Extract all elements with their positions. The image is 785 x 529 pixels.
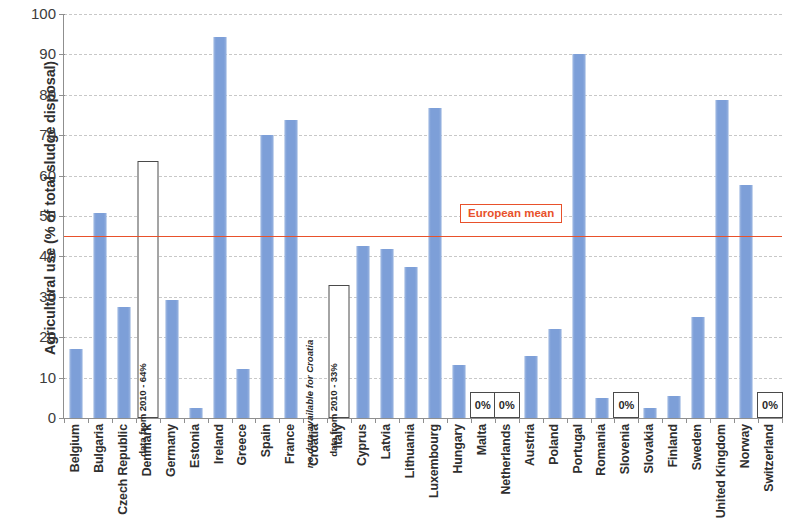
- bar-estonia[interactable]: [189, 408, 202, 418]
- bar-united-kingdom[interactable]: [716, 100, 729, 418]
- bar-slot[interactable]: [64, 14, 88, 418]
- bar-sweden[interactable]: [692, 317, 705, 418]
- bar-slot[interactable]: [591, 14, 615, 418]
- bar-slot[interactable]: [279, 14, 303, 418]
- bar-slot[interactable]: [208, 14, 232, 418]
- bar-slot[interactable]: [375, 14, 399, 418]
- x-label-slot: Romania: [590, 424, 614, 529]
- x-axis-label-poland: Poland: [547, 424, 561, 465]
- y-tick-label: 20: [16, 328, 56, 345]
- bar-austria[interactable]: [524, 356, 537, 418]
- bar-czech-republic[interactable]: [117, 307, 130, 418]
- zero-value-box-netherlands[interactable]: 0%: [494, 392, 520, 418]
- x-axis-label-united-kingdom: United Kingdom: [714, 424, 728, 518]
- bar-slot[interactable]: [399, 14, 423, 418]
- x-tick-mark: [471, 418, 472, 423]
- x-axis-label-denmark: Denmark: [140, 424, 154, 476]
- x-label-slot: Portugal: [566, 424, 590, 529]
- x-axis-label-luxembourg: Luxembourg: [427, 424, 441, 498]
- bar-hungary[interactable]: [452, 365, 465, 418]
- bar-slot[interactable]: [232, 14, 256, 418]
- x-tick-mark: [112, 418, 113, 423]
- european-mean-label: European mean: [460, 204, 562, 223]
- x-tick-mark: [327, 418, 328, 423]
- bar-finland[interactable]: [668, 396, 681, 418]
- x-tick-mark: [591, 418, 592, 423]
- x-axis-label-czech-republic: Czech Republic: [116, 424, 130, 515]
- bar-poland[interactable]: [548, 329, 561, 418]
- bar-germany[interactable]: [165, 300, 178, 418]
- x-label-slot: Norway: [733, 424, 757, 529]
- bar-slot[interactable]: [255, 14, 279, 418]
- bar-slot[interactable]: no data available for Croatia: [303, 14, 327, 418]
- bar-slot[interactable]: [351, 14, 375, 418]
- x-axis-label-italy: Italy: [331, 424, 345, 448]
- y-tick-label: 80: [16, 86, 56, 103]
- x-axis-label-belgium: Belgium: [68, 424, 82, 472]
- x-label-slot: Austria: [518, 424, 542, 529]
- bar-slot[interactable]: [184, 14, 208, 418]
- x-axis-label-netherlands: Netherlands: [499, 424, 513, 495]
- y-tick-label: 100: [16, 5, 56, 22]
- y-tick-label: 70: [16, 126, 56, 143]
- bar-slot[interactable]: [734, 14, 758, 418]
- x-label-slot: Sweden: [685, 424, 709, 529]
- bar-slot[interactable]: [88, 14, 112, 418]
- bar-spain[interactable]: [261, 135, 274, 418]
- x-tick-mark: [734, 418, 735, 423]
- bar-cyprus[interactable]: [357, 246, 370, 418]
- x-tick-mark: [567, 418, 568, 423]
- y-tick-label: 90: [16, 45, 56, 62]
- bar-belgium[interactable]: [69, 349, 82, 418]
- x-label-slot: Hungary: [446, 424, 470, 529]
- bar-greece[interactable]: [237, 369, 250, 418]
- x-tick-mark: [495, 418, 496, 423]
- bar-lithuania[interactable]: [405, 267, 418, 418]
- bar-romania[interactable]: [596, 398, 609, 418]
- zero-value-box-malta[interactable]: 0%: [470, 392, 496, 418]
- y-tick-label: 50: [16, 207, 56, 224]
- bar-bulgaria[interactable]: [93, 213, 106, 418]
- x-axis-label-greece: Greece: [235, 424, 249, 465]
- bar-norway[interactable]: [740, 185, 753, 419]
- bar-slot[interactable]: [638, 14, 662, 418]
- x-axis-label-norway: Norway: [738, 424, 752, 468]
- zero-value-box-slovenia[interactable]: 0%: [613, 392, 639, 418]
- bar-slot[interactable]: [662, 14, 686, 418]
- bar-slot[interactable]: data from 2010 - 33%: [327, 14, 351, 418]
- bar-slot[interactable]: 0%: [614, 14, 638, 418]
- x-axis-label-austria: Austria: [523, 424, 537, 466]
- bar-slovakia[interactable]: [644, 408, 657, 418]
- x-axis-label-malta: Malta: [475, 424, 489, 455]
- x-label-slot: Netherlands: [494, 424, 518, 529]
- x-axis-label-portugal: Portugal: [571, 424, 585, 473]
- x-label-slot: Denmark: [135, 424, 159, 529]
- x-axis-label-hungary: Hungary: [451, 424, 465, 474]
- bar-slot[interactable]: [686, 14, 710, 418]
- x-tick-mark: [399, 418, 400, 423]
- x-axis-label-cyprus: Cyprus: [355, 424, 369, 466]
- x-tick-mark: [279, 418, 280, 423]
- bar-slot[interactable]: [710, 14, 734, 418]
- x-label-slot: Finland: [661, 424, 685, 529]
- bar-france[interactable]: [285, 120, 298, 418]
- bar-slot[interactable]: [567, 14, 591, 418]
- x-tick-mark: [758, 418, 759, 423]
- bar-slot[interactable]: [112, 14, 136, 418]
- x-label-slot: Slovenia: [613, 424, 637, 529]
- x-label-slot: Malta: [470, 424, 494, 529]
- bar-latvia[interactable]: [381, 249, 394, 418]
- x-axis-label-switzerland: Switzerland: [762, 424, 776, 492]
- bar-slot[interactable]: data from 2010 - 64%: [136, 14, 160, 418]
- bar-slot[interactable]: [160, 14, 184, 418]
- x-tick-mark: [447, 418, 448, 423]
- zero-value-box-switzerland[interactable]: 0%: [757, 392, 783, 418]
- bar-ireland[interactable]: [213, 37, 226, 418]
- x-axis-label-croatia: Croatia: [307, 424, 321, 466]
- bar-slot[interactable]: 0%: [758, 14, 782, 418]
- x-tick-mark: [88, 418, 89, 423]
- bar-luxembourg[interactable]: [428, 108, 441, 418]
- x-label-slot: Latvia: [374, 424, 398, 529]
- bar-slot[interactable]: [423, 14, 447, 418]
- x-axis-label-latvia: Latvia: [379, 424, 393, 459]
